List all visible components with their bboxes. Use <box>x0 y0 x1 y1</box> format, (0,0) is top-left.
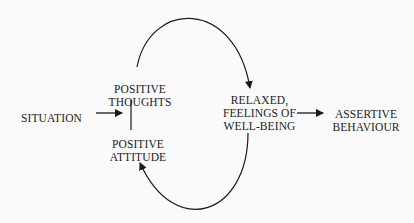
node-assertive-line-1: ASSERTIVE <box>320 108 412 121</box>
node-situation-line-1: SITUATION <box>21 112 82 125</box>
node-positive-attitude: POSITIVE ATTITUDE <box>98 138 178 164</box>
node-positive-thoughts-line-2: THOUGHTS <box>100 96 180 109</box>
node-relaxed-wellbeing: RELAXED, FEELINGS OF WELL-BEING <box>207 94 312 133</box>
node-assertive-behaviour: ASSERTIVE BEHAVIOUR <box>320 108 412 134</box>
node-relaxed-line-1: RELAXED, <box>207 94 312 107</box>
node-positive-thoughts: POSITIVE THOUGHTS <box>100 83 180 109</box>
node-positive-attitude-line-1: POSITIVE <box>98 138 178 151</box>
node-positive-attitude-line-2: ATTITUDE <box>98 151 178 164</box>
node-positive-thoughts-line-1: POSITIVE <box>100 83 180 96</box>
node-assertive-line-2: BEHAVIOUR <box>320 121 412 134</box>
node-situation: SITUATION <box>21 112 82 125</box>
cycle-diagram: SITUATION POSITIVE THOUGHTS POSITIVE ATT… <box>0 0 414 223</box>
arc-thoughts-to-relaxed <box>137 18 250 88</box>
node-relaxed-line-2: FEELINGS OF <box>207 107 312 120</box>
node-relaxed-line-3: WELL-BEING <box>207 120 312 133</box>
